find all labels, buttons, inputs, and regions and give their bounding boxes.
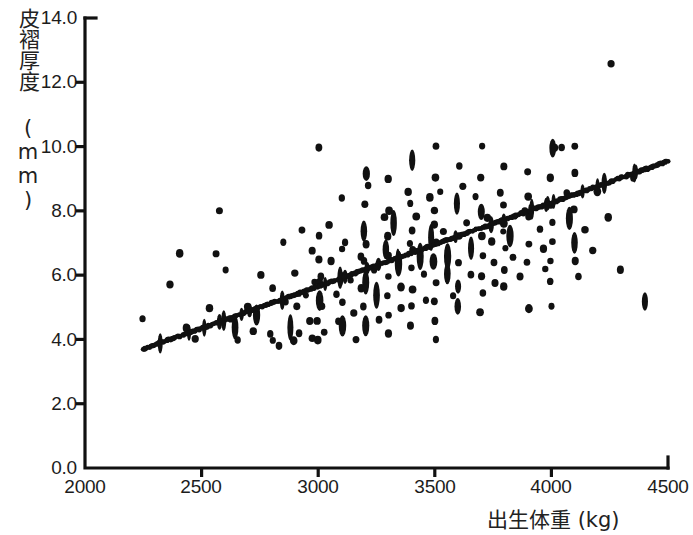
axis-lines: [85, 18, 668, 468]
regression-line: [141, 159, 671, 354]
scatter-points: [139, 60, 648, 350]
